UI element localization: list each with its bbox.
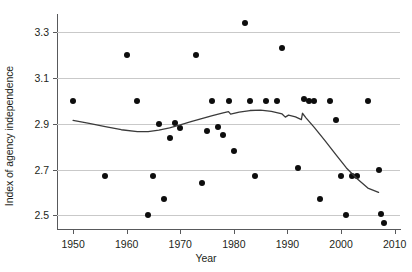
y-tick-label: 2.7 xyxy=(23,164,49,176)
trend-line xyxy=(57,14,400,229)
x-tick-mark xyxy=(234,230,235,234)
x-tick-label: 1950 xyxy=(61,238,84,250)
y-tick-mark xyxy=(53,78,57,79)
x-tick-label: 1990 xyxy=(276,238,299,250)
y-axis-title: Index of agency independence xyxy=(0,0,18,272)
scatter-chart: Index of agency independence Year 2.52.7… xyxy=(0,0,412,272)
x-tick-mark xyxy=(395,230,396,234)
x-axis-line xyxy=(57,229,401,230)
y-tick-mark xyxy=(53,215,57,216)
x-tick-mark xyxy=(73,230,74,234)
y-tick-label: 2.5 xyxy=(23,209,49,221)
x-tick-label: 1980 xyxy=(222,238,245,250)
x-tick-label: 1960 xyxy=(115,238,138,250)
x-tick-mark xyxy=(127,230,128,234)
y-tick-mark xyxy=(53,32,57,33)
y-tick-mark xyxy=(53,124,57,125)
y-tick-mark xyxy=(53,170,57,171)
plot-area xyxy=(57,14,400,229)
y-tick-label: 3.1 xyxy=(23,72,49,84)
x-tick-mark xyxy=(180,230,181,234)
y-tick-label: 3.3 xyxy=(23,26,49,38)
x-tick-label: 2000 xyxy=(329,238,352,250)
y-tick-label: 2.9 xyxy=(23,118,49,130)
x-tick-mark xyxy=(287,230,288,234)
x-tick-label: 1970 xyxy=(169,238,192,250)
x-tick-label: 2010 xyxy=(383,238,406,250)
x-tick-mark xyxy=(341,230,342,234)
x-axis-title: Year xyxy=(0,252,412,264)
